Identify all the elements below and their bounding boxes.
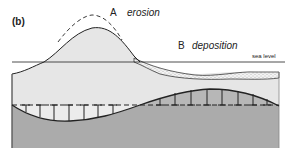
- label-deposition: deposition: [192, 41, 238, 51]
- label-a-letter: A: [110, 8, 117, 18]
- label-b-letter: B: [178, 41, 185, 51]
- label-sea-level: sea level: [252, 53, 276, 59]
- panel-label: (b): [12, 17, 25, 27]
- label-erosion: erosion: [127, 8, 160, 18]
- diagram-canvas: [0, 0, 293, 156]
